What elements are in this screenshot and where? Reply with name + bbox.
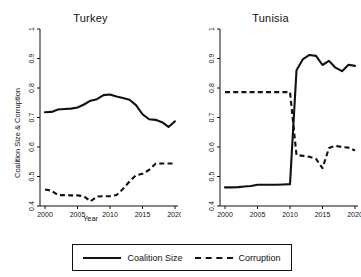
- xtick-label: 2000: [217, 211, 233, 218]
- xtick-label: 2015: [315, 211, 331, 218]
- ytick-label: 0.6: [208, 142, 215, 152]
- chart-panel-tunisia: Tunisia 1 0.9 0.8 0.7 0.6 0.5 0.4: [180, 0, 361, 228]
- legend-dashed-line-swatch: [195, 257, 233, 259]
- series-line-coalition-size: [225, 55, 355, 187]
- figure-panel-container: Turkey 1 0.9 0.8 0.7 0.6 0.5 0.4: [0, 0, 361, 277]
- y-axis-turkey: 1 0.9 0.8 0.7 0.6 0.5 0.4: [28, 27, 40, 211]
- series-line-coalition-size: [45, 94, 175, 126]
- chart-legend: Coalition Size Corruption: [72, 244, 292, 271]
- y-axis-title: Coalition Size & Corruption: [13, 88, 22, 178]
- plot-svg-turkey: 1 0.9 0.8 0.7 0.6 0.5 0.4 2000 2005 2010…: [0, 0, 181, 228]
- ytick-label: 1: [28, 27, 35, 31]
- ytick-label: 0.4: [28, 201, 35, 211]
- legend-label: Coalition Size: [127, 253, 182, 263]
- ytick-label: 0.9: [28, 54, 35, 64]
- plot-svg-tunisia: 1 0.9 0.8 0.7 0.6 0.5 0.4 2000 2005 2010…: [180, 0, 361, 228]
- ytick-label: 0.8: [208, 83, 215, 93]
- y-axis-tunisia: 1 0.9 0.8 0.7 0.6 0.5 0.4: [208, 27, 220, 211]
- ytick-label: 0.5: [28, 172, 35, 182]
- ytick-label: 0.6: [28, 142, 35, 152]
- series-line-corruption: [225, 92, 355, 168]
- legend-item-coalition-size: Coalition Size: [83, 253, 182, 263]
- ytick-label: 0.5: [208, 172, 215, 182]
- ytick-label: 1: [208, 27, 215, 31]
- ytick-label: 0.8: [28, 83, 35, 93]
- ytick-label: 0.9: [208, 54, 215, 64]
- ytick-label: 0.4: [208, 201, 215, 211]
- series-line-corruption: [45, 164, 175, 202]
- legend-item-corruption: Corruption: [195, 253, 281, 263]
- xtick-label: 2020: [347, 211, 361, 218]
- ytick-label: 0.7: [28, 113, 35, 123]
- x-axis-title: Year: [0, 214, 181, 223]
- ytick-label: 0.7: [208, 113, 215, 123]
- x-axis-tunisia: 2000 2005 2010 2015 2020: [217, 206, 361, 218]
- legend-label: Corruption: [239, 253, 281, 263]
- xtick-label: 2010: [282, 211, 298, 218]
- chart-panel-turkey: Turkey 1 0.9 0.8 0.7 0.6 0.5 0.4: [0, 0, 181, 228]
- xtick-label: 2005: [250, 211, 266, 218]
- legend-solid-line-swatch: [83, 257, 121, 259]
